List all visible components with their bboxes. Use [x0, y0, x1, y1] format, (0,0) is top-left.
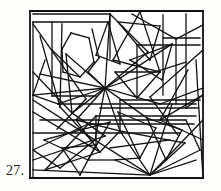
- figure-segments: [30, 11, 203, 178]
- line-tangle-figure: [0, 0, 221, 191]
- figure-number-label: 27.: [6, 163, 24, 179]
- figure-page: 27.: [0, 0, 221, 191]
